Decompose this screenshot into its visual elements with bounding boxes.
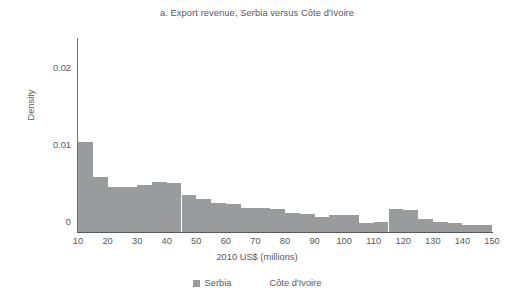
x-tick-label: 50 bbox=[191, 236, 201, 246]
histogram-bar bbox=[329, 215, 344, 232]
histogram-bar bbox=[211, 203, 226, 232]
histogram-bar bbox=[344, 215, 359, 232]
x-tick-label: 110 bbox=[366, 236, 381, 246]
histogram-bar bbox=[462, 225, 477, 232]
plot-area: 00.010.020.030.040.05 bbox=[78, 39, 492, 232]
histogram-bar bbox=[448, 223, 463, 232]
histogram-bar bbox=[389, 209, 404, 232]
legend-label: Serbia bbox=[205, 278, 232, 288]
x-axis-line bbox=[77, 232, 493, 233]
x-tick-label: 70 bbox=[250, 236, 260, 246]
y-tick-label: 0.01 bbox=[53, 140, 71, 150]
histogram-bar bbox=[255, 208, 270, 232]
y-tick-label: 0 bbox=[66, 217, 71, 227]
histogram-bar bbox=[122, 187, 137, 232]
y-gridline: 0.02 bbox=[78, 154, 492, 155]
legend-entry: Côte d'Ivoire bbox=[257, 278, 321, 288]
histogram-bar bbox=[285, 213, 300, 232]
histogram-bar bbox=[108, 187, 123, 232]
legend-entry: Serbia bbox=[193, 278, 232, 288]
legend-swatch-icon bbox=[193, 280, 200, 287]
chart-title: a. Export revenue, Serbia versus Côte d'… bbox=[0, 8, 514, 18]
x-tick-label: 30 bbox=[132, 236, 142, 246]
histogram-bar bbox=[196, 199, 211, 232]
histogram-bar bbox=[167, 183, 182, 232]
legend-swatch-icon bbox=[257, 280, 264, 287]
x-tick-label: 60 bbox=[221, 236, 231, 246]
x-tick-label: 10 bbox=[73, 236, 83, 246]
y-gridline: 0.03 bbox=[78, 115, 492, 116]
histogram-bar bbox=[433, 222, 448, 232]
histogram-bar bbox=[315, 217, 330, 232]
histogram-bar bbox=[374, 222, 389, 232]
legend-label: Côte d'Ivoire bbox=[269, 278, 321, 288]
x-tick-label: 40 bbox=[162, 236, 172, 246]
x-tick-label: 140 bbox=[455, 236, 471, 246]
x-tick-label: 100 bbox=[336, 236, 352, 246]
x-tick-label: 20 bbox=[102, 236, 112, 246]
y-gridline: 0.04 bbox=[78, 77, 492, 78]
y-axis-label: Density bbox=[26, 70, 36, 140]
y-gridline: 0.05 bbox=[78, 38, 492, 39]
histogram-bar bbox=[418, 219, 433, 232]
x-tick-label: 80 bbox=[280, 236, 290, 246]
y-tick-label: 0.02 bbox=[53, 63, 71, 73]
histogram-bar bbox=[137, 185, 152, 232]
x-tick-label: 130 bbox=[425, 236, 441, 246]
x-axis-ticks: 102030405060708090100110120130140150 bbox=[78, 236, 492, 250]
x-axis-label: 2010 US$ (millions) bbox=[0, 252, 514, 262]
histogram-bar bbox=[403, 210, 418, 232]
histogram-bar bbox=[226, 204, 241, 232]
chart-legend: SerbiaCôte d'Ivoire bbox=[0, 278, 514, 288]
x-tick-label: 90 bbox=[309, 236, 319, 246]
histogram-bar bbox=[182, 195, 197, 232]
x-tick-label: 120 bbox=[396, 236, 412, 246]
histogram-bar bbox=[270, 209, 285, 232]
histogram-bar bbox=[359, 223, 374, 232]
x-tick-label: 150 bbox=[484, 236, 500, 246]
figure-panel: a. Export revenue, Serbia versus Côte d'… bbox=[0, 0, 514, 307]
histogram-bar bbox=[93, 177, 108, 232]
histogram-bar bbox=[241, 208, 256, 232]
histogram-bar bbox=[152, 182, 167, 232]
histogram-bar bbox=[477, 225, 492, 232]
histogram-bar bbox=[300, 214, 315, 232]
histogram-bar bbox=[78, 142, 93, 232]
